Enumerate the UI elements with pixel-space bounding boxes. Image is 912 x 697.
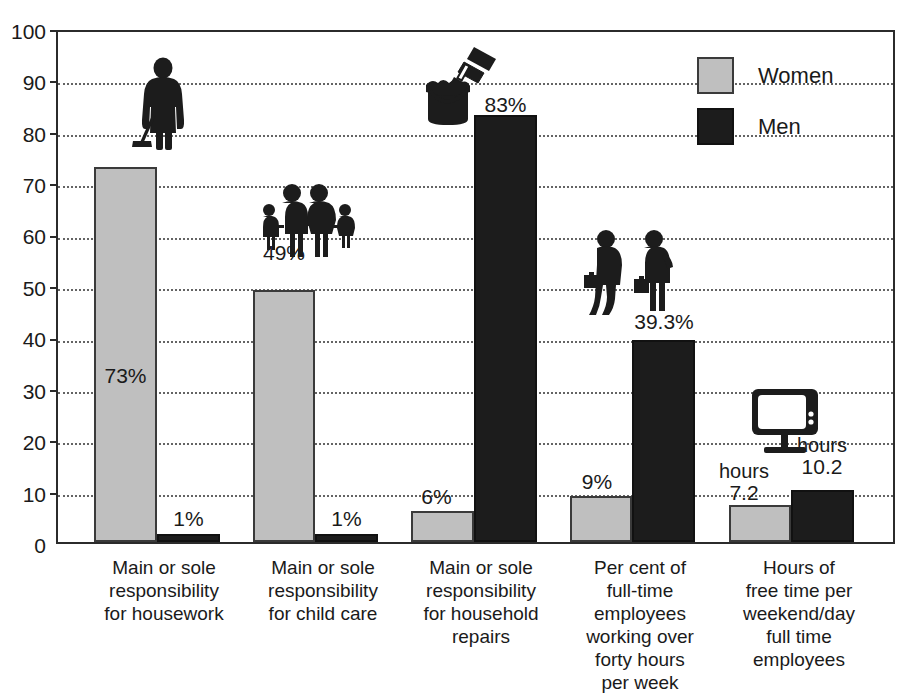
legend-label-men: Men: [758, 114, 801, 140]
bar-women-freetime: [729, 505, 791, 542]
legend-item-men: Men: [697, 108, 867, 145]
y-tick-50: 50: [0, 277, 46, 301]
category-label-repairs: Main or sole responsibility for househol…: [401, 556, 561, 648]
legend: Women Men: [697, 57, 867, 159]
bar-value-women-freetime: 7.2: [729, 481, 758, 504]
bar-women-overtime: [570, 496, 632, 542]
y-tick-40: 40: [0, 328, 46, 352]
y-tick-20: 20: [0, 431, 46, 455]
y-tick-0: 0: [0, 534, 46, 558]
y-tick-100: 100: [0, 20, 46, 44]
bar-label-men-childcare: 1%: [315, 508, 378, 530]
bar-unit-women-freetime: hours: [706, 461, 782, 482]
bar-men-freetime: [791, 490, 854, 542]
business-people-icon: [576, 227, 686, 317]
bar-men-housework: [157, 534, 220, 542]
bar-label-men-housework: 1%: [157, 508, 220, 530]
women-swatch: [697, 57, 734, 94]
bar-label-women-housework: 73%: [94, 365, 157, 387]
bar-men-childcare: [315, 534, 378, 542]
legend-label-women: Women: [758, 63, 833, 89]
bar-men-overtime: [632, 340, 695, 542]
category-label-overtime: Per cent of full-time employees working …: [560, 556, 720, 694]
y-tick-30: 30: [0, 380, 46, 404]
bar-label-women-overtime: 9%: [566, 471, 628, 493]
y-tick-10: 10: [0, 483, 46, 507]
bar-women-childcare: [253, 290, 315, 542]
family-icon: [257, 182, 357, 258]
paint-can-brush-icon: [414, 45, 500, 127]
bar-women-repairs: [411, 511, 474, 542]
legend-item-women: Women: [697, 57, 867, 94]
men-swatch: [697, 108, 734, 145]
y-tick-80: 80: [0, 123, 46, 147]
category-label-housework: Main or sole responsibility for housewor…: [84, 556, 244, 625]
y-tick-70: 70: [0, 174, 46, 198]
bar-label-women-repairs: 6%: [405, 486, 468, 508]
bar-chart: 100 90 80 70 60 50 40 30 20 10 0: [0, 0, 912, 697]
television-icon: [748, 387, 830, 455]
bar-value-men-freetime: 10.2: [802, 455, 843, 478]
category-label-childcare: Main or sole responsibility for child ca…: [243, 556, 403, 625]
y-tick-60: 60: [0, 225, 46, 249]
bar-women-housework: [94, 167, 157, 542]
category-label-freetime: Hours of free time per weekend/day full …: [719, 556, 879, 671]
bar-label-women-freetime: hours 7.2: [706, 461, 782, 504]
bar-men-repairs: [474, 115, 537, 542]
vacuuming-person-icon: [130, 57, 194, 152]
y-tick-90: 90: [0, 71, 46, 95]
